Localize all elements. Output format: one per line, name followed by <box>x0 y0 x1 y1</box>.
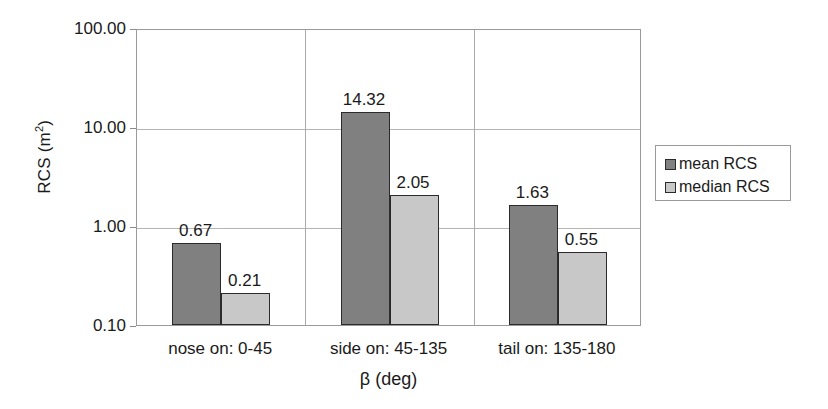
bar-value-label: 0.55 <box>546 231 616 248</box>
bar-value-label: 2.05 <box>378 174 448 191</box>
bar-value-label: 0.21 <box>210 272 280 289</box>
bar <box>341 112 390 325</box>
legend-label-median-rcs: median RCS <box>679 179 770 195</box>
y-axis-tick-label: 0.10 <box>36 317 126 334</box>
y-axis-tick-label: 100.00 <box>36 20 126 37</box>
bar-value-label: 14.32 <box>329 91 399 108</box>
legend: mean RCS median RCS <box>655 145 791 201</box>
bar-value-label: 0.67 <box>161 222 231 239</box>
legend-item-mean-rcs: mean RCS <box>665 156 757 172</box>
bar-value-label: 1.63 <box>497 184 567 201</box>
category-separator <box>474 30 475 325</box>
legend-swatch-median-rcs <box>665 182 676 193</box>
y-axis-tick-label: 1.00 <box>36 218 126 235</box>
rcs-bar-chart: RCS (m2) 100.0010.001.000.10 0.670.2114.… <box>0 0 828 409</box>
x-axis-title: β (deg) <box>136 369 641 390</box>
bar <box>390 195 439 325</box>
x-axis-category-label: tail on: 135-180 <box>447 340 667 357</box>
y-axis-title-text: RCS (m <box>35 132 54 194</box>
legend-item-median-rcs: median RCS <box>665 179 770 195</box>
legend-label-mean-rcs: mean RCS <box>679 156 757 172</box>
bar <box>558 252 607 325</box>
legend-swatch-mean-rcs <box>665 159 676 170</box>
y-axis-tick-mark <box>130 326 136 327</box>
bar <box>221 293 270 325</box>
category-separator <box>305 30 306 325</box>
bar <box>509 205 558 325</box>
y-axis-tick-label: 10.00 <box>36 119 126 136</box>
